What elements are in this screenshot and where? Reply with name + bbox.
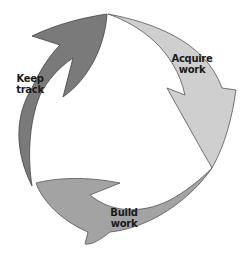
arrow-keep-track bbox=[19, 14, 107, 186]
label-acquire-work: Acquire work bbox=[170, 53, 214, 75]
label-line: track bbox=[12, 84, 48, 95]
label-line: Acquire bbox=[170, 53, 214, 64]
label-line: Build bbox=[106, 207, 142, 218]
label-line: Keep bbox=[12, 73, 48, 84]
arrow-acquire-work bbox=[108, 14, 236, 168]
label-line: work bbox=[170, 64, 214, 75]
label-keep-track: Keep track bbox=[12, 73, 48, 95]
label-line: work bbox=[106, 218, 142, 229]
label-build-work: Build work bbox=[106, 207, 142, 229]
